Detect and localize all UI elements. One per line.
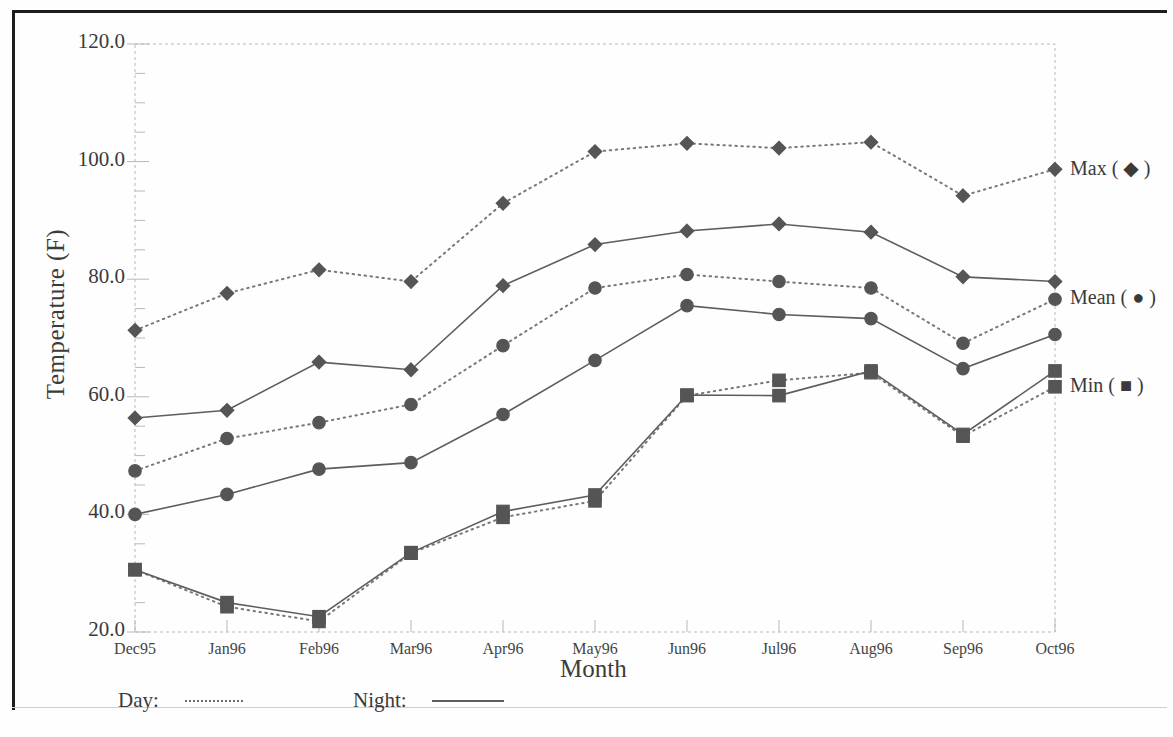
data-point-circle — [129, 465, 141, 477]
series-line — [135, 142, 1055, 330]
y-tick-label: 60.0 — [49, 382, 125, 407]
data-point-circle — [221, 432, 233, 444]
data-point-circle — [865, 282, 877, 294]
x-tick-label: Mar96 — [390, 640, 433, 658]
data-point-diamond — [681, 137, 694, 150]
series-night-mean — [129, 299, 1061, 520]
data-point-circle — [589, 354, 601, 366]
x-tick-label: Aug96 — [849, 640, 893, 658]
data-point-circle — [405, 456, 417, 468]
data-point-circle — [221, 488, 233, 500]
data-point-diamond — [957, 270, 970, 283]
x-tick-label: Jul96 — [762, 640, 797, 658]
series-legend-item: Mean ( ● ) — [1070, 286, 1156, 309]
series-legend-item: Min ( ■ ) — [1070, 374, 1144, 397]
chart-page: Temperature (F) Month 120.0100.080.060.0… — [0, 0, 1173, 737]
data-point-square — [865, 365, 877, 377]
data-point-diamond — [129, 324, 142, 337]
series-line — [135, 306, 1055, 515]
series-night-max — [129, 217, 1062, 424]
data-point-square — [129, 563, 141, 575]
data-point-diamond — [681, 224, 694, 237]
data-point-circle — [681, 299, 693, 311]
data-point-diamond — [589, 238, 602, 251]
data-point-diamond — [313, 263, 326, 276]
series-night-min — [129, 365, 1061, 623]
data-point-circle — [129, 508, 141, 520]
data-point-square — [497, 505, 509, 517]
y-tick-label: 120.0 — [49, 29, 125, 54]
data-point-diamond — [589, 145, 602, 158]
data-point-diamond — [221, 287, 234, 300]
data-point-circle — [1049, 328, 1061, 340]
data-point-circle — [773, 275, 785, 287]
data-point-circle — [957, 362, 969, 374]
series-line — [135, 275, 1055, 471]
data-point-diamond — [313, 356, 326, 369]
data-point-square — [773, 374, 785, 386]
y-tick-label: 100.0 — [49, 147, 125, 172]
plot-canvas — [0, 0, 1173, 737]
plot-frame — [135, 44, 1055, 632]
x-tick-label: Oct96 — [1035, 640, 1074, 658]
data-point-diamond — [1049, 163, 1062, 176]
data-point-circle — [957, 337, 969, 349]
x-tick-label: Jun96 — [668, 640, 706, 658]
data-point-diamond — [865, 226, 878, 239]
x-tick-label: May96 — [572, 640, 617, 658]
data-point-circle — [313, 463, 325, 475]
data-point-diamond — [773, 142, 786, 155]
series-legend-item: Max ( ◆ ) — [1070, 156, 1150, 180]
data-point-diamond — [1049, 275, 1062, 288]
series-line — [135, 224, 1055, 418]
y-tick-label: 40.0 — [49, 499, 125, 524]
data-point-square — [681, 389, 693, 401]
x-tick-label: Sep96 — [943, 640, 983, 658]
data-point-circle — [497, 339, 509, 351]
data-point-circle — [681, 268, 693, 280]
data-point-square — [405, 546, 417, 558]
data-point-circle — [405, 398, 417, 410]
data-point-square — [1049, 381, 1061, 393]
data-point-square — [589, 489, 601, 501]
x-tick-label: Dec95 — [114, 640, 156, 658]
data-point-circle — [313, 416, 325, 428]
data-point-circle — [865, 312, 877, 324]
data-point-diamond — [221, 404, 234, 417]
data-point-square — [1049, 365, 1061, 377]
y-tick-label: 20.0 — [49, 617, 125, 642]
data-point-circle — [1049, 293, 1061, 305]
x-tick-label: Feb96 — [299, 640, 339, 658]
series-day-mean — [129, 268, 1061, 477]
data-point-diamond — [865, 136, 878, 149]
x-tick-label: Jan96 — [208, 640, 245, 658]
x-tick-label: Apr96 — [483, 640, 524, 658]
series-day-max — [129, 136, 1062, 337]
data-point-circle — [589, 282, 601, 294]
series-layer — [129, 136, 1062, 628]
data-point-diamond — [129, 411, 142, 424]
data-point-square — [773, 389, 785, 401]
x-axis-title: Month — [560, 655, 627, 683]
data-point-square — [313, 611, 325, 623]
data-point-square — [221, 596, 233, 608]
line-chart: Temperature (F) Month 120.0100.080.060.0… — [0, 0, 1173, 737]
y-tick-label: 80.0 — [49, 264, 125, 289]
data-point-circle — [773, 308, 785, 320]
data-point-circle — [497, 408, 509, 420]
data-point-diamond — [773, 217, 786, 230]
data-point-diamond — [957, 189, 970, 202]
data-point-square — [957, 428, 969, 440]
y-axis-title: Temperature (F) — [42, 164, 70, 464]
axis-layer — [127, 44, 1055, 632]
